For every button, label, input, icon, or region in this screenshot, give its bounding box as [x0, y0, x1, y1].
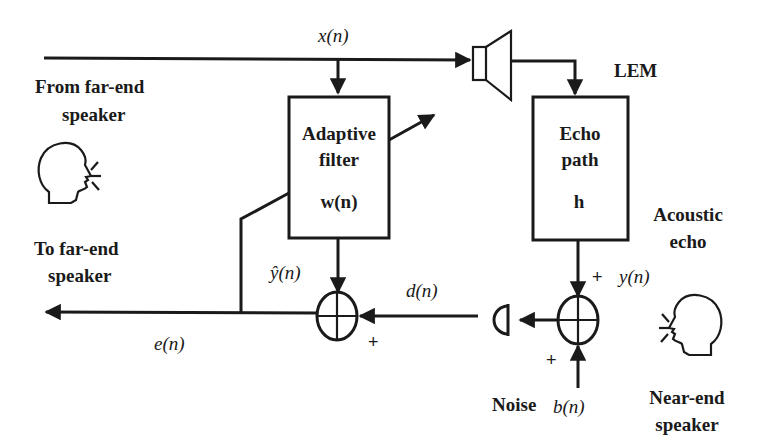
echo-path-param: h: [574, 191, 585, 212]
x-signal-label: x(n): [317, 25, 349, 47]
loudspeaker-icon: [473, 31, 511, 100]
from-far-end-label-2: speaker: [62, 104, 126, 125]
right-summing-junction-icon: [558, 296, 598, 344]
y-hat-signal-label: ŷ(n): [268, 262, 301, 284]
acoustic-echo-label-2: echo: [670, 231, 707, 252]
e-signal-label: e(n): [154, 333, 185, 355]
left-sum-right-sign: +: [368, 332, 379, 352]
adaptive-filter-label-1: Adaptive: [302, 123, 376, 144]
echo-path-label-2: path: [562, 149, 599, 170]
near-end-label-1: Near-end: [649, 387, 725, 408]
right-sum-bottom-sign: +: [546, 350, 557, 370]
to-far-end-label-1: To far-end: [34, 238, 119, 259]
adaptive-filter-param: w(n): [321, 191, 358, 213]
far-end-speaker-head-icon: [39, 143, 101, 203]
near-end-speaker-head-icon: [659, 295, 721, 355]
from-far-end-label-1: From far-end: [35, 76, 145, 97]
right-sum-top-sign: +: [592, 267, 603, 287]
acoustic-echo-label-1: Acoustic: [653, 204, 723, 225]
adaptation-arrow: [389, 115, 434, 140]
echo-path-label-1: Echo: [559, 123, 600, 144]
error-feedback-line: [241, 193, 289, 313]
y-signal-label: y(n): [617, 266, 650, 288]
microphone-icon: [494, 304, 508, 336]
adaptive-filter-label-2: filter: [319, 149, 360, 170]
d-signal-label: d(n): [406, 280, 438, 302]
echo-cancellation-diagram: x(n) LEM From far-end speaker Adaptive f…: [0, 0, 765, 445]
error-output-line: [46, 312, 317, 313]
noise-label: Noise: [492, 394, 536, 415]
speaker-to-echo-path-line: [511, 61, 575, 94]
to-far-end-label-2: speaker: [48, 265, 112, 286]
lem-label: LEM: [614, 60, 657, 81]
near-end-label-2: speaker: [655, 414, 719, 435]
echo-path-block: Echo path h: [533, 97, 628, 240]
left-summing-junction-icon: [317, 292, 357, 340]
b-signal-label: b(n): [553, 396, 585, 418]
adaptive-filter-block: Adaptive filter w(n): [289, 97, 389, 238]
